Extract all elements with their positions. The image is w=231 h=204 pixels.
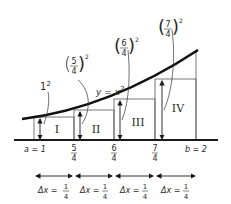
- svg-text:1: 1: [143, 183, 147, 191]
- svg-text:4: 4: [152, 154, 157, 163]
- svg-text:): ): [78, 53, 85, 74]
- svg-text:5: 5: [71, 144, 76, 153]
- svg-text:Δx =: Δx =: [119, 186, 139, 195]
- height-label-7-4-squared: ( 7 4 ) 2: [158, 16, 183, 39]
- svg-text:4: 4: [111, 154, 116, 163]
- svg-text:1: 1: [103, 183, 107, 191]
- svg-text:6: 6: [111, 144, 116, 153]
- svg-text:4: 4: [143, 193, 148, 201]
- svg-text:7: 7: [165, 20, 170, 29]
- svg-text:4: 4: [103, 193, 108, 201]
- svg-text:4: 4: [121, 49, 126, 58]
- riemann-sum-diagram: I II III IV y = x2 12 ( 5 4 ) 2 ( 6 4 ) …: [0, 0, 231, 204]
- tick-6-4: 6 4: [111, 144, 117, 163]
- tick-5-4: 5 4: [71, 144, 77, 163]
- delta-label-3: Δx = 1 4: [119, 183, 148, 201]
- svg-text:2: 2: [85, 53, 89, 60]
- svg-text:(: (: [158, 16, 165, 37]
- svg-text:2: 2: [135, 36, 139, 43]
- height-label-5-4-squared: ( 5 4 ) 2: [64, 53, 89, 76]
- rect-label-I: I: [55, 123, 59, 136]
- svg-text:Δx =: Δx =: [160, 186, 180, 195]
- height-label-1-squared: 12: [40, 80, 51, 92]
- svg-text:): ): [172, 16, 179, 37]
- rect-label-II: II: [92, 123, 101, 136]
- svg-text:4: 4: [71, 67, 76, 76]
- svg-text:Δx =: Δx =: [79, 186, 99, 195]
- svg-text:Δx =: Δx =: [37, 186, 57, 195]
- svg-text:4: 4: [165, 30, 170, 39]
- svg-text:(: (: [64, 53, 71, 74]
- curve-label: y = x2: [95, 85, 125, 97]
- svg-text:6: 6: [121, 39, 126, 48]
- svg-text:1: 1: [184, 183, 188, 191]
- svg-text:4: 4: [71, 154, 76, 163]
- svg-text:5: 5: [71, 57, 76, 66]
- delta-label-1: Δx = 1 4: [37, 183, 69, 201]
- delta-label-2: Δx = 1 4: [79, 183, 108, 201]
- tick-b: b = 2: [185, 145, 207, 154]
- rect-label-IV: IV: [172, 102, 185, 115]
- svg-text:4: 4: [184, 193, 189, 201]
- svg-text:1: 1: [64, 183, 68, 191]
- svg-text:2: 2: [179, 17, 183, 24]
- tick-7-4: 7 4: [152, 144, 158, 163]
- rect-label-III: III: [131, 116, 144, 129]
- svg-text:4: 4: [64, 193, 69, 201]
- tick-a: a = 1: [24, 145, 46, 154]
- svg-text:7: 7: [152, 144, 157, 153]
- height-label-6-4-squared: ( 6 4 ) 2: [114, 35, 139, 58]
- svg-text:(: (: [114, 35, 121, 56]
- delta-label-4: Δx = 1 4: [160, 183, 189, 201]
- svg-text:): ): [128, 35, 135, 56]
